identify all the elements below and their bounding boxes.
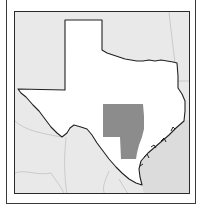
texas-map	[15, 12, 190, 194]
map-frame	[14, 11, 190, 194]
